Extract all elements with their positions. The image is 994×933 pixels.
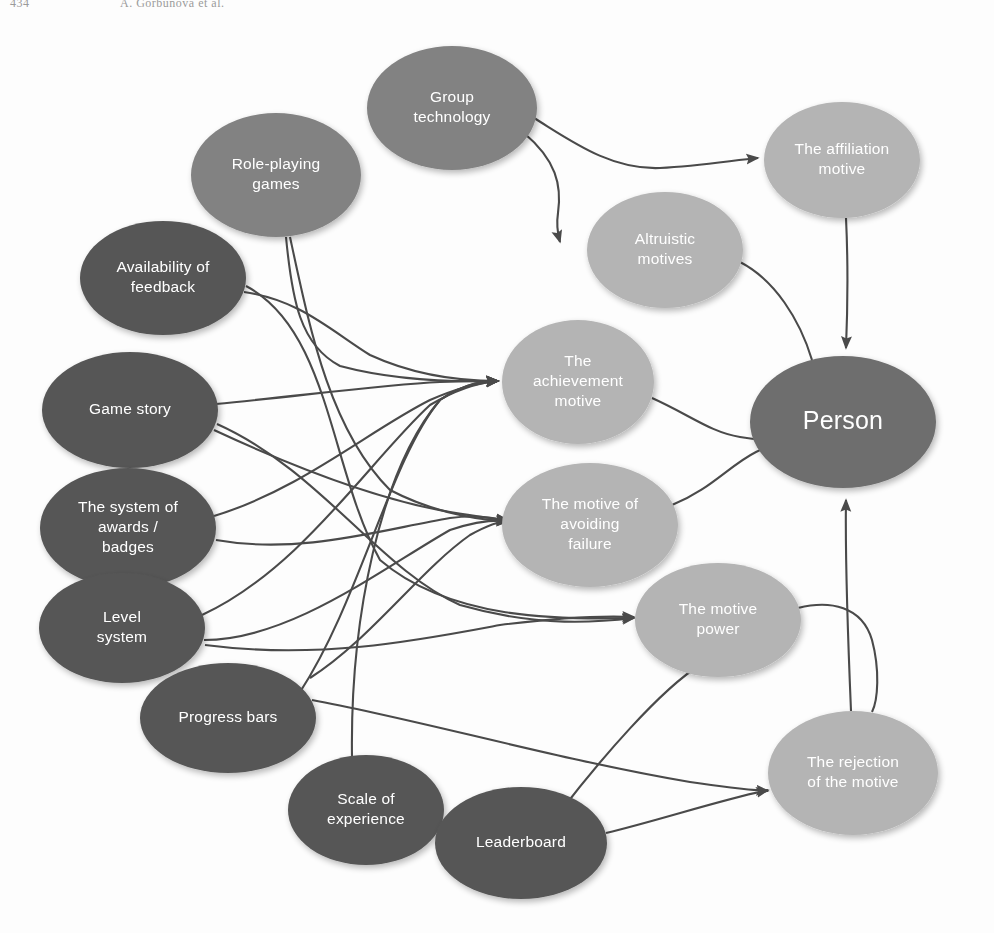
edge-progress_bars-to-avoiding_failure [310,521,508,678]
node-motive_power[interactable]: The motivepower [635,563,801,677]
node-affiliation_motive[interactable]: The affiliationmotive [764,102,920,218]
node-ellipse-leaderboard [435,787,607,899]
node-ellipse-game_story [42,352,218,468]
node-person[interactable]: Person [750,356,936,488]
node-ellipse-affiliation_motive [764,102,920,218]
edge-role_playing_games-to-achievement_motive [286,237,498,381]
node-ellipse-altruistic_motives [587,192,743,308]
edge-affiliation_motive-to-person [846,218,848,348]
edge-leaderboard-to-motive_power [560,650,712,812]
node-availability_feedback[interactable]: Availability offeedback [80,221,246,335]
node-altruistic_motives[interactable]: Altruisticmotives [587,192,743,308]
edge-scale_experience-to-achievement_motive [352,381,498,757]
node-awards_badges[interactable]: The system ofawards /badges [40,468,216,588]
node-role_playing_games[interactable]: Role-playinggames [191,113,361,237]
node-achievement_motive[interactable]: Theachievementmotive [502,320,654,444]
node-ellipse-availability_feedback [80,221,246,335]
node-group_technology[interactable]: Grouptechnology [367,46,537,170]
node-leaderboard[interactable]: Leaderboard [435,787,607,899]
nodes-layer: GrouptechnologyRole-playinggamesThe affi… [39,46,938,899]
node-ellipse-progress_bars [140,663,316,773]
node-progress_bars[interactable]: Progress bars [140,663,316,773]
edge-group_technology-to-altruistic_motives [524,133,560,242]
node-ellipse-avoiding_failure [502,463,678,587]
diagram-page: 434 A. Gorbunova et al. GrouptechnologyR… [0,0,994,933]
node-ellipse-motive_power [635,563,801,677]
node-ellipse-achievement_motive [502,320,654,444]
node-ellipse-role_playing_games [191,113,361,237]
edge-motive_power-to-rejection_motive [798,605,877,712]
edge-game_story-to-avoiding_failure [214,430,508,520]
node-level_system[interactable]: Levelsystem [39,573,205,683]
edge-rejection_motive-to-person [846,500,851,711]
edge-leaderboard-to-rejection_motive [606,790,768,833]
node-ellipse-person [750,356,936,488]
edge-level_system-to-achievement_motive [202,381,498,615]
gamification-motivation-diagram: GrouptechnologyRole-playinggamesThe affi… [0,0,994,933]
node-ellipse-group_technology [367,46,537,170]
node-ellipse-awards_badges [40,468,216,588]
node-game_story[interactable]: Game story [42,352,218,468]
edge-group_technology-to-affiliation_motive [534,118,758,168]
node-scale_experience[interactable]: Scale ofexperience [288,755,444,865]
node-ellipse-level_system [39,573,205,683]
node-ellipse-rejection_motive [768,711,938,835]
edge-role_playing_games-to-avoiding_failure [290,237,508,521]
node-rejection_motive[interactable]: The rejectionof the motive [768,711,938,835]
node-avoiding_failure[interactable]: The motive ofavoidingfailure [502,463,678,587]
node-ellipse-scale_experience [288,755,444,865]
edge-availability_feedback-to-achievement_motive [244,292,498,381]
